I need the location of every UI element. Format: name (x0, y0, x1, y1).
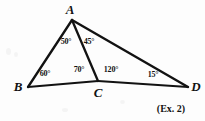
angle-adc-label: 15° (148, 71, 159, 79)
vertex-label-a: A (66, 3, 75, 16)
segment-ad (72, 20, 188, 87)
angle-acd-label: 120° (104, 66, 118, 74)
angle-cad-label: 45° (84, 38, 95, 46)
segment-group (28, 20, 188, 87)
vertex-label-c: C (94, 86, 103, 99)
segment-bc (28, 81, 98, 87)
angle-acb-label: 70° (74, 66, 85, 74)
vertex-label-d: D (191, 80, 200, 93)
angle-bac-label: 50° (61, 38, 72, 46)
segment-cd (98, 81, 188, 87)
figure-caption: (Ex. 2) (157, 103, 185, 114)
angle-abc-label: 60° (40, 70, 51, 78)
figure-container: (Ex. 2) ABCD50°45°60°70°120°15° (0, 0, 205, 121)
vertex-label-b: B (14, 80, 23, 93)
